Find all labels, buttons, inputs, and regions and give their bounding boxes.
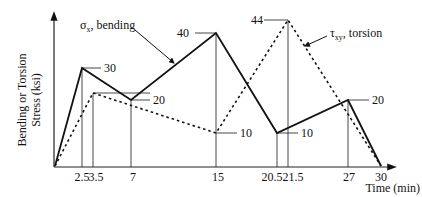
x-tick-2-5: 2.5 [75,170,90,184]
value-label-20-second: 20 [372,93,384,107]
bending-text: , bending [90,18,135,32]
svg-text:σx, bending: σx, bending [80,18,135,34]
stress-time-chart: Bending or Torsion Stress (ksi) 30 20 40… [0,0,422,197]
x-tick-15: 15 [212,170,224,184]
x-tick-7: 7 [130,170,136,184]
y-axis-label: Bending or Torsion Stress (ksi) [15,54,43,147]
svg-text:τxy, torsion: τxy, torsion [330,26,382,42]
x-axis-label: Time (min) [365,181,420,195]
bending-annotation: σx, bending [80,18,174,63]
bending-series-line [55,33,381,166]
x-tick-3-5: 3.5 [89,170,104,184]
value-label-40: 40 [177,26,189,40]
torsion-annotation: τxy, torsion [305,26,382,46]
x-tick-27: 27 [343,170,355,184]
y-axis-label-line1: Bending or Torsion [15,54,29,147]
torsion-subscript: xy [335,33,343,42]
x-tick-20-5: 20.5 [262,170,283,184]
y-axis-label-line2: Stress (ksi) [29,73,43,127]
torsion-text: , torsion [343,26,382,40]
value-label-10-second: 10 [301,126,313,140]
x-tick-labels: 2.5 3.5 7 15 20.5 21.5 27 30 [75,170,388,184]
value-label-20-first: 20 [153,93,165,107]
value-label-44: 44 [251,13,263,27]
x-tick-21-5: 21.5 [283,170,304,184]
value-label-10-first: 10 [240,126,252,140]
value-label-30: 30 [104,61,116,75]
